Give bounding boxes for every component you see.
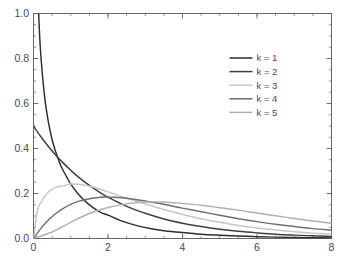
x-tick-label: 0 [31, 241, 37, 253]
x-tick-label: 4 [180, 241, 186, 253]
y-tick-label: 0.0 [14, 232, 29, 244]
chi-squared-pdf-figure: 02468 0.00.20.40.60.81.0 k = 1k = 2k = 3… [0, 0, 345, 274]
legend-label-1: k = 1 [257, 52, 278, 63]
y-tick-label: 0.2 [14, 187, 29, 199]
legend-label-5: k = 5 [257, 107, 278, 118]
legend-label-3: k = 3 [257, 80, 278, 91]
x-tick-label: 6 [254, 241, 260, 253]
legend-label-4: k = 4 [257, 93, 278, 104]
y-tick-label: 1.0 [14, 7, 29, 19]
plot-canvas: 02468 0.00.20.40.60.81.0 k = 1k = 2k = 3… [0, 0, 345, 274]
x-tick-label: 8 [329, 241, 335, 253]
x-tick-label: 2 [105, 241, 111, 253]
y-tick-label: 0.8 [14, 52, 29, 64]
legend-label-2: k = 2 [257, 66, 278, 77]
y-tick-label: 0.4 [14, 142, 29, 154]
y-tick-label: 0.6 [14, 97, 29, 109]
